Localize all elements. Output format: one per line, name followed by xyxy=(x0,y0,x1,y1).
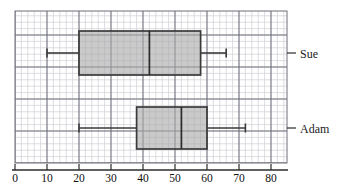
x-tick-label-0: 0 xyxy=(12,172,18,184)
boxplot-svg: 0 10 20 30 40 50 60 70 80 Sue Adam xyxy=(0,0,356,191)
x-tick-label-60: 60 xyxy=(201,172,213,184)
x-tick-label-80: 80 xyxy=(265,172,277,184)
adam-box xyxy=(137,107,207,149)
x-tick-label-30: 30 xyxy=(105,172,117,184)
series-label-sue: Sue xyxy=(300,47,318,61)
x-tick-label-20: 20 xyxy=(73,172,85,184)
boxplot-figure: 0 10 20 30 40 50 60 70 80 Sue Adam xyxy=(0,0,356,191)
x-tick-label-70: 70 xyxy=(233,172,245,184)
series-label-adam: Adam xyxy=(300,122,330,136)
series-leader-lines xyxy=(287,53,296,128)
x-tick-label-50: 50 xyxy=(169,172,181,184)
x-axis-ticks xyxy=(15,164,271,170)
sue-box xyxy=(79,31,201,75)
x-tick-label-10: 10 xyxy=(41,172,53,184)
x-tick-label-40: 40 xyxy=(137,172,149,184)
